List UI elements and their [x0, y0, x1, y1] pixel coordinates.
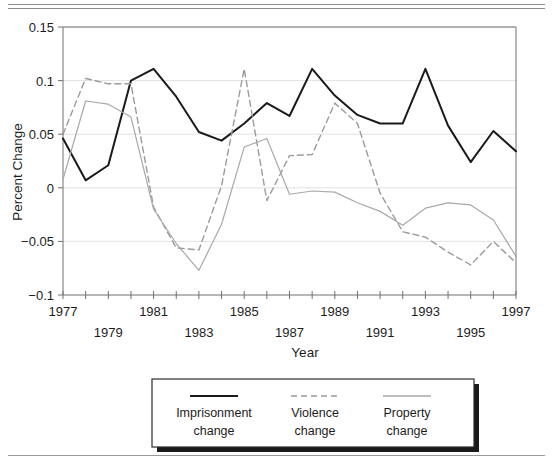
- y-tick-label: 0.1: [36, 74, 54, 89]
- x-tick-label-row2: 1991: [366, 325, 395, 340]
- x-tick-label-row2: 1983: [184, 325, 213, 340]
- legend-label-3-line1: Property: [383, 406, 431, 420]
- y-axis-tick-labels: −0.1−0.0500.050.10.15: [21, 20, 63, 303]
- chart-legend: ImprisonmentchangeViolencechangeProperty…: [152, 379, 479, 452]
- legend-label-1-line2: change: [193, 424, 234, 438]
- legend-label-1-line1: Imprisonment: [176, 406, 252, 420]
- x-tick-label-row2: 1987: [275, 325, 304, 340]
- y-axis-title: Percent Change: [10, 123, 25, 221]
- x-tick-label-row2: 1979: [94, 325, 123, 340]
- legend-label-2-line2: change: [294, 424, 335, 438]
- plot-frame: [63, 27, 516, 295]
- y-tick-label: −0.05: [21, 234, 54, 249]
- series-line-2: [63, 69, 516, 265]
- y-tick-label: −0.1: [28, 288, 54, 303]
- footer-rule: [8, 455, 545, 456]
- legend-label-3-line2: change: [386, 424, 427, 438]
- data-series-layer: [63, 69, 516, 271]
- x-tick-label-row2: 1995: [456, 325, 485, 340]
- x-axis-ticks: [63, 291, 516, 299]
- x-tick-label-row1: 1985: [230, 304, 259, 319]
- x-tick-label-row1: 1997: [502, 304, 531, 319]
- legend-label-2-line1: Violence: [291, 406, 339, 420]
- y-tick-label: 0.05: [29, 127, 54, 142]
- header-rule-lower: [8, 8, 545, 9]
- x-axis-title: Year: [291, 345, 319, 360]
- y-tick-label: 0: [47, 181, 54, 196]
- series-line-1: [63, 69, 516, 180]
- line-chart-figure: −0.1−0.0500.050.10.15 197719811985198919…: [0, 12, 553, 452]
- header-rule-upper: [8, 4, 545, 5]
- x-tick-label-row1: 1981: [139, 304, 168, 319]
- x-tick-label-row1: 1993: [411, 304, 440, 319]
- x-tick-label-row1: 1989: [320, 304, 349, 319]
- grid-lines: [63, 27, 516, 241]
- plot-border: [63, 27, 516, 295]
- y-tick-label: 0.15: [29, 20, 54, 35]
- x-axis-tick-labels: 1977198119851989199319971979198319871991…: [49, 304, 531, 340]
- x-tick-label-row1: 1977: [49, 304, 78, 319]
- figure-page: −0.1−0.0500.050.10.15 197719811985198919…: [0, 0, 553, 468]
- chart-canvas: −0.1−0.0500.050.10.15 197719811985198919…: [0, 12, 553, 452]
